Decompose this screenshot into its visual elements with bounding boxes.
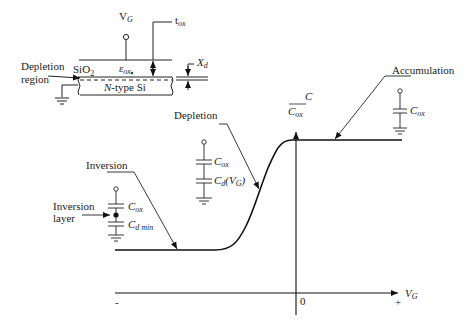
- accumulation-annotation: [335, 76, 411, 139]
- oxide-dot: [131, 72, 133, 74]
- cv-curve: [115, 140, 402, 250]
- inversion-layer-dot: [113, 212, 118, 217]
- substrate-ground-lead: [62, 85, 78, 97]
- depletion-region-label-2: region: [21, 73, 50, 85]
- accumulation-label: Accumulation: [392, 64, 455, 76]
- x-tick-minus: -: [115, 296, 119, 308]
- y-axis-label-numerator: C: [305, 90, 313, 102]
- oxide-thickness-label: tox: [175, 14, 186, 28]
- depletion-cox-label: Cox: [214, 155, 229, 169]
- inversion-layer-label-2: layer: [53, 212, 75, 224]
- accumulation-cap-label: Cox: [410, 104, 425, 118]
- substrate-label: N-type Si: [103, 81, 146, 93]
- oxide-material-label: SiO2: [73, 63, 94, 78]
- xd-leader: [188, 64, 194, 71]
- x-tick-plus: +: [395, 296, 401, 308]
- inversion-terminal-icon: [114, 187, 118, 191]
- permittivity-label: εox: [119, 62, 131, 76]
- gate-voltage-label: VG: [119, 10, 133, 24]
- tox-leader: [153, 22, 172, 60]
- y-axis-label-denominator: Cox: [288, 105, 303, 119]
- depletion-terminal-icon: [202, 140, 206, 144]
- depletion-region-label-1: Depletion: [21, 60, 65, 72]
- inversion-layer-label-1: Inversion: [53, 200, 95, 212]
- mos-cv-diagram: VG tox Xd SiO2 εox N-type Si Depletion r…: [0, 0, 469, 327]
- depletion-cd-label: Cd(VG): [214, 174, 246, 188]
- x-tick-zero: 0: [300, 295, 306, 307]
- si-left-break: [78, 77, 80, 95]
- accumulation-terminal-icon: [398, 89, 402, 93]
- inversion-label: Inversion: [86, 159, 128, 171]
- x-axis-label: VG: [405, 287, 418, 301]
- depletion-region-arrow: [48, 76, 80, 78]
- graph-axes: [115, 132, 398, 315]
- inversion-cdmin-label: Cd min: [128, 218, 153, 232]
- depletion-label: Depletion: [174, 109, 218, 121]
- depletion-width-label: Xd: [196, 56, 209, 70]
- inversion-cox-label: Cox: [128, 200, 143, 214]
- gate-terminal-icon: [123, 34, 128, 39]
